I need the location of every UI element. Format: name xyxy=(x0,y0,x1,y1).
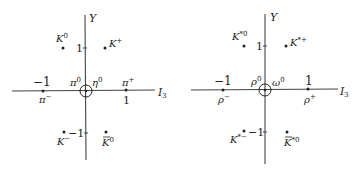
i3-axis-label: I3 xyxy=(339,85,349,99)
tick-x-neg1: −1 xyxy=(214,74,232,88)
label-piplus: π+ xyxy=(121,76,135,88)
tick-x-1: 1 xyxy=(305,74,313,88)
point-k0 xyxy=(62,47,65,50)
tick-y-neg1: −1 xyxy=(248,126,264,139)
tick-x-1: 1 xyxy=(123,94,130,107)
point-rhoplus xyxy=(307,88,310,91)
label-rhominus: ρ− xyxy=(217,93,230,105)
label-kstarminus: K*− xyxy=(229,133,247,145)
tick-y-1: 1 xyxy=(76,42,83,55)
label-kstar0: K*0 xyxy=(231,30,247,42)
tick-y-neg1: −1 xyxy=(68,127,84,140)
i3-axis-label: I3 xyxy=(157,86,167,100)
point-piplus xyxy=(125,89,128,92)
point-rhominus xyxy=(222,89,225,92)
vector-octet-diagram: Y I3 1 −1 −1 1 K*0 K*+ ρ− ρ+ ρ0 ω0 K*− K… xyxy=(191,11,349,164)
tick-y-1: 1 xyxy=(256,40,263,53)
label-omega0: ω0 xyxy=(272,76,285,88)
point-piminus xyxy=(42,90,45,93)
label-rho0: ρ0 xyxy=(250,75,261,87)
tick-x-neg1: −1 xyxy=(33,75,51,89)
label-k0: K0 xyxy=(55,32,68,44)
meson-octet-diagrams: Y I3 1 −1 −1 1 K0 K+ π− π+ π0 η0 K− K0 Y… xyxy=(0,0,355,171)
label-rhoplus: ρ+ xyxy=(303,93,316,105)
label-pi0: π0 xyxy=(69,76,81,88)
point-kstar0 xyxy=(243,45,246,48)
label-kstar0bar: K*0 xyxy=(283,136,299,148)
point-kstar0bar xyxy=(286,131,289,134)
y-axis xyxy=(85,15,86,160)
y-axis-label: Y xyxy=(270,11,279,24)
point-center xyxy=(85,90,88,93)
label-k0bar: K0 xyxy=(101,136,114,148)
y-axis-label: Y xyxy=(89,12,98,25)
label-kstarplus: K*+ xyxy=(289,36,307,48)
point-k0bar xyxy=(105,131,108,134)
label-eta0: η0 xyxy=(92,76,102,88)
point-center xyxy=(264,89,267,92)
i3-axis xyxy=(12,90,155,91)
label-kminus: K− xyxy=(56,135,70,147)
pseudoscalar-octet-diagram: Y I3 1 −1 −1 1 K0 K+ π− π+ π0 η0 K− K0 xyxy=(12,12,167,160)
label-kplus: K+ xyxy=(108,37,122,49)
point-kstarplus xyxy=(285,45,288,48)
point-kplus xyxy=(104,47,107,50)
point-kminus xyxy=(63,131,66,134)
label-piminus: π− xyxy=(38,93,52,105)
